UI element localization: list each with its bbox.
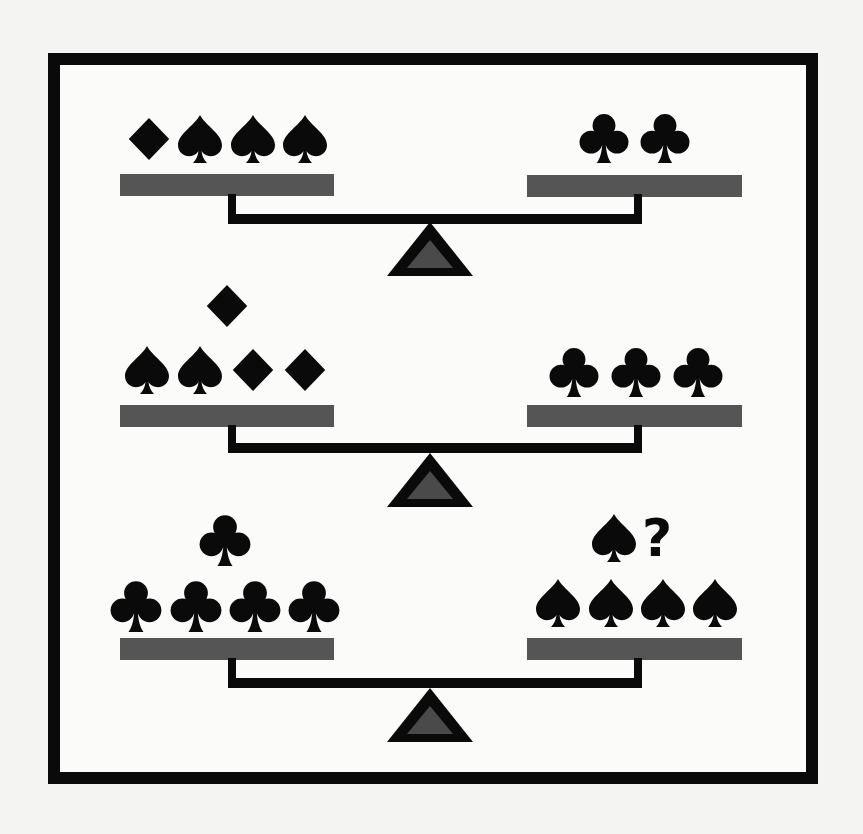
spade-icon <box>280 114 330 164</box>
puzzle-canvas: ? <box>0 0 863 834</box>
diamond-icon <box>127 116 171 162</box>
club-icon <box>577 112 631 164</box>
club-icon <box>168 579 224 633</box>
spade-icon <box>228 114 278 164</box>
spade-icon <box>175 343 225 397</box>
left-pan <box>120 405 334 427</box>
fulcrum-icon <box>387 688 473 742</box>
club-icon <box>546 346 602 398</box>
spade-icon <box>533 575 583 631</box>
club-icon <box>197 513 253 567</box>
right-pan <box>527 638 742 660</box>
diamond-icon <box>283 343 327 397</box>
fulcrum-icon <box>387 453 473 507</box>
left-pan <box>120 638 334 660</box>
club-icon <box>608 346 664 398</box>
club-icon <box>638 112 692 164</box>
club-icon <box>227 579 283 633</box>
fulcrum-icon <box>387 222 473 276</box>
spade-icon <box>589 510 639 566</box>
spade-icon <box>586 575 636 631</box>
club-icon <box>108 579 164 633</box>
spade-icon <box>122 343 172 397</box>
club-icon <box>286 579 342 633</box>
spade-icon <box>175 114 225 164</box>
balance-beam <box>228 443 642 453</box>
club-icon <box>670 346 726 398</box>
balance-beam <box>228 678 642 688</box>
left-pan <box>120 174 334 196</box>
right-pan <box>527 405 742 427</box>
spade-icon <box>690 575 740 631</box>
question-mark: ? <box>642 512 672 564</box>
spade-icon <box>638 575 688 631</box>
diamond-icon <box>205 281 249 331</box>
diamond-icon <box>231 343 275 397</box>
